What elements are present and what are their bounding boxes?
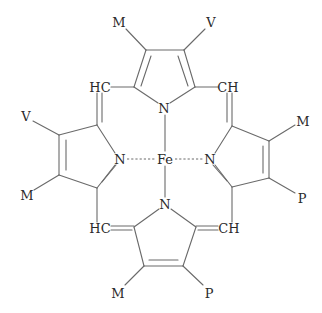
substituent-right-bottom: P [298, 191, 307, 206]
substituent-bottom-left: M [111, 286, 124, 301]
structure-svg: M V V M M P M P HC CH HC CH N N N N Fe [0, 0, 322, 313]
substituent-top-right: V [205, 15, 216, 30]
iron-atom: Fe [157, 152, 173, 167]
methine-bottom-right: CH [218, 221, 239, 236]
substituent-left-top: V [20, 109, 31, 124]
nitrogen-bottom: N [159, 197, 170, 212]
substituent-left-bottom: M [20, 188, 33, 203]
nitrogen-right: N [204, 152, 215, 167]
top-pyrrole-ring [111, 29, 218, 103]
heme-structure-diagram: M V V M M P M P HC CH HC CH N N N N Fe [0, 0, 322, 313]
substituent-top-left: M [112, 15, 125, 30]
methine-top-right: CH [217, 80, 238, 95]
substituent-bottom-right: P [205, 286, 214, 301]
methine-bottom-left: HC [89, 221, 110, 236]
methine-top-left: HC [89, 80, 110, 95]
left-pyrrole-ring [33, 93, 116, 222]
bottom-pyrrole-ring [111, 209, 218, 285]
nitrogen-top: N [158, 101, 169, 116]
right-pyrrole-ring [213, 93, 295, 222]
substituent-right-top: M [296, 114, 309, 129]
nitrogen-left: N [114, 152, 125, 167]
